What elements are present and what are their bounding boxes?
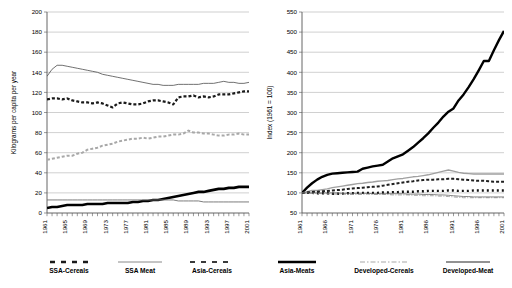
x-tick-label: 1997 bbox=[223, 219, 230, 233]
x-tick-label: 1976 bbox=[372, 219, 379, 233]
y-tick-label: 250 bbox=[287, 129, 298, 136]
legend-label: Developed-Cereals bbox=[354, 267, 414, 275]
legend-item: SSA-Cereals bbox=[49, 262, 89, 274]
y-tick-label: 60 bbox=[35, 149, 42, 156]
legend-label: Asia-Cereals bbox=[192, 267, 232, 274]
x-tick-label: 2001 bbox=[498, 219, 505, 233]
y-tick-label: 160 bbox=[32, 48, 43, 55]
x-tick-label: 1989 bbox=[182, 219, 189, 233]
series-line bbox=[47, 131, 249, 160]
legend-label: SSA-Cereals bbox=[49, 267, 89, 274]
y-tick-label: 400 bbox=[287, 69, 298, 76]
y-tick-label: 180 bbox=[32, 28, 43, 35]
x-tick-label: 1966 bbox=[321, 219, 328, 233]
right-chart-panel: 5010015020025030035040045050055019611966… bbox=[256, 0, 512, 288]
y-tick-label: 450 bbox=[287, 48, 298, 55]
series-line bbox=[47, 65, 249, 85]
legend-item: Asia-Meats bbox=[278, 262, 316, 274]
y-tick-label: 200 bbox=[32, 8, 43, 15]
series-line bbox=[47, 187, 249, 208]
y-tick-label: 100 bbox=[287, 189, 298, 196]
y-tick-label: 140 bbox=[32, 69, 43, 76]
x-tick-label: 1993 bbox=[203, 219, 210, 233]
y-tick-label: 40 bbox=[35, 169, 42, 176]
x-tick-label: 1965 bbox=[61, 219, 68, 233]
y-tick-label: 150 bbox=[287, 169, 298, 176]
x-tick-label: 1986 bbox=[422, 219, 429, 233]
x-tick-label: 1969 bbox=[81, 219, 88, 233]
x-tick-label: 1961 bbox=[41, 219, 48, 233]
x-tick-label: 2001 bbox=[243, 219, 250, 233]
plot-area bbox=[47, 65, 249, 208]
left-chart-panel: 0204060801001201401601802001961196519691… bbox=[0, 0, 256, 288]
y-tick-label: 0 bbox=[39, 209, 43, 216]
y-tick-label: 200 bbox=[287, 149, 298, 156]
y-tick-label: 500 bbox=[287, 28, 298, 35]
x-tick-label: 1973 bbox=[102, 219, 109, 233]
legend-item: Developed-Meat bbox=[443, 262, 494, 275]
right-chart-svg: 5010015020025030035040045050055019611966… bbox=[256, 0, 512, 288]
x-tick-label: 1985 bbox=[162, 219, 169, 233]
legend-label: Developed-Meat bbox=[443, 267, 494, 275]
legend-label: SSA Meat bbox=[125, 267, 156, 274]
y-tick-label: 300 bbox=[287, 109, 298, 116]
y-axis-title: Index (1961 = 100) bbox=[266, 86, 274, 140]
legend-item: SSA Meat bbox=[118, 262, 162, 274]
x-tick-label: 1991 bbox=[448, 219, 455, 233]
y-tick-label: 80 bbox=[35, 129, 42, 136]
y-axis-title: Kilograms per capita per year bbox=[10, 70, 18, 154]
legend-label: Asia-Meats bbox=[280, 267, 315, 274]
x-tick-label: 1977 bbox=[122, 219, 129, 233]
y-tick-label: 120 bbox=[32, 89, 43, 96]
series-line bbox=[47, 91, 249, 107]
y-tick-label: 50 bbox=[290, 209, 297, 216]
x-tick-label: 1981 bbox=[142, 219, 149, 233]
series-line bbox=[302, 31, 504, 193]
x-tick-label: 1961 bbox=[296, 219, 303, 233]
x-tick-label: 1971 bbox=[347, 219, 354, 233]
y-tick-label: 100 bbox=[32, 109, 43, 116]
x-tick-label: 1981 bbox=[397, 219, 404, 233]
y-tick-label: 550 bbox=[287, 8, 298, 15]
y-tick-label: 20 bbox=[35, 189, 42, 196]
y-tick-label: 350 bbox=[287, 89, 298, 96]
figure-root: 0204060801001201401601802001961196519691… bbox=[0, 0, 512, 288]
x-tick-label: 1996 bbox=[473, 219, 480, 233]
legend-item: Developed-Cereals bbox=[354, 262, 414, 275]
left-chart-svg: 0204060801001201401601802001961196519691… bbox=[0, 0, 256, 288]
legend-item: Asia-Cereals bbox=[190, 262, 234, 274]
